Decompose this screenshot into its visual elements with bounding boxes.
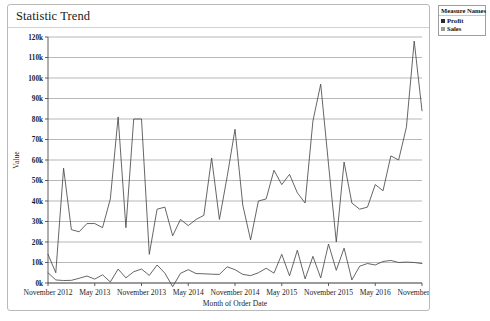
x-axis-tick-label: May 2015 (266, 288, 297, 297)
y-axis-tick-label: 80k (32, 116, 43, 124)
y-axis-tick-label: 40k (32, 198, 43, 206)
legend-item-list: ProfitSales (439, 16, 485, 35)
y-axis-tick-label: 50k (32, 177, 43, 185)
y-axis-tick-label: 70k (32, 136, 43, 144)
y-axis-tick-label: 110k (29, 54, 43, 62)
y-axis-tick-label: 90k (32, 95, 43, 103)
x-axis-tick-label: November 2013 (117, 288, 166, 297)
legend-title: Measure Names (439, 6, 485, 16)
chart-title: Statistic Trend (16, 9, 90, 24)
legend-item-label: Profit (447, 17, 463, 25)
x-axis-tick-label: November 2014 (210, 288, 259, 297)
legend-item[interactable]: Profit (441, 17, 483, 25)
y-axis-tick-label: 120k (28, 34, 43, 42)
x-axis-tick-label: May 2013 (79, 288, 110, 297)
series-line-sales (48, 41, 422, 273)
y-axis-title: Value (12, 151, 21, 169)
legend-item[interactable]: Sales (441, 25, 483, 33)
y-axis-tick-label: 60k (32, 157, 43, 165)
y-axis-tick-label: 10k (32, 259, 43, 267)
y-axis-tick-label: 20k (32, 239, 43, 247)
line-chart-svg: 0k10k20k30k40k50k60k70k80k90k100k110k120… (8, 27, 429, 311)
x-axis-tick-label: November 2016 (397, 288, 429, 297)
legend-item-label: Sales (447, 25, 461, 33)
x-axis-title: Month of Order Date (203, 299, 268, 308)
y-axis-tick-label: 100k (28, 75, 43, 83)
x-axis-tick-label: May 2016 (360, 288, 391, 297)
x-axis-tick-label: May 2014 (173, 288, 204, 297)
legend-swatch-icon (441, 19, 445, 23)
x-axis-tick-label: November 2012 (23, 288, 72, 297)
legend: Measure Names ProfitSales (438, 5, 486, 36)
y-axis-tick-label: 0k (35, 280, 43, 288)
y-axis-tick-label: 30k (32, 218, 43, 226)
chart-panel: Statistic Trend 0k10k20k30k40k50k60k70k8… (7, 4, 430, 311)
chart-screenshot-root: Statistic Trend 0k10k20k30k40k50k60k70k8… (0, 0, 490, 321)
plot-area: 0k10k20k30k40k50k60k70k80k90k100k110k120… (8, 27, 429, 311)
legend-swatch-icon (441, 27, 445, 31)
x-axis-tick-label: November 2015 (304, 288, 353, 297)
series-line-profit (48, 244, 422, 287)
